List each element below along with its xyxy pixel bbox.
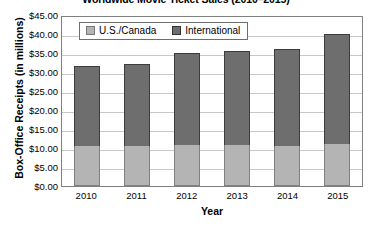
bar-segment-domestic[interactable] — [174, 145, 200, 186]
y-axis-tick-label: $30.00 — [18, 68, 58, 78]
bar-group — [262, 17, 312, 186]
legend-swatch-domestic — [86, 26, 95, 35]
y-axis-tick-label: $45.00 — [18, 11, 58, 21]
y-axis-tick-label: $20.00 — [18, 106, 58, 116]
bars-layer — [62, 17, 362, 186]
bar-stack[interactable] — [224, 51, 250, 186]
x-axis-tick-label: 2010 — [61, 190, 111, 201]
y-axis-tick-label: $5.00 — [18, 163, 58, 173]
bar-stack[interactable] — [124, 64, 150, 186]
bar-segment-international[interactable] — [224, 51, 250, 144]
x-axis-title: Year — [61, 205, 363, 217]
plot-area — [61, 16, 363, 187]
bar-segment-domestic[interactable] — [224, 145, 250, 186]
x-axis-tick-label: 2012 — [162, 190, 212, 201]
legend-item-international: International — [172, 25, 240, 36]
bar-segment-domestic[interactable] — [74, 146, 100, 186]
y-axis-tick-label: $35.00 — [18, 49, 58, 59]
y-axis-tick-label: $15.00 — [18, 125, 58, 135]
x-axis-tick-label: 2014 — [262, 190, 312, 201]
bar-group — [312, 17, 362, 186]
bar-segment-international[interactable] — [324, 34, 350, 144]
bar-group — [62, 17, 112, 186]
legend: U.S./Canada International — [79, 22, 248, 40]
bar-group — [162, 17, 212, 186]
bar-segment-domestic[interactable] — [124, 146, 150, 186]
bar-chart: Worldwide Movie Ticket Sales (2010–2015)… — [0, 0, 372, 226]
bar-group — [212, 17, 262, 186]
bar-stack[interactable] — [74, 66, 100, 186]
bar-segment-international[interactable] — [74, 66, 100, 145]
bar-stack[interactable] — [274, 49, 300, 186]
x-axis-tick-label: 2011 — [111, 190, 161, 201]
legend-swatch-international — [172, 26, 181, 35]
x-axis-tick-label: 2015 — [313, 190, 363, 201]
chart-title: Worldwide Movie Ticket Sales (2010–2015) — [0, 0, 372, 5]
y-axis-tick-label: $25.00 — [18, 87, 58, 97]
bar-segment-international[interactable] — [174, 53, 200, 145]
x-axis-tick-label: 2013 — [212, 190, 262, 201]
y-axis-tick-label: $10.00 — [18, 144, 58, 154]
legend-label-international: International — [185, 25, 240, 36]
bar-stack[interactable] — [324, 34, 350, 186]
x-axis-tick-labels: 201020112012201320142015 — [61, 190, 363, 201]
y-axis-tick-label: $0.00 — [18, 182, 58, 192]
bar-group — [112, 17, 162, 186]
bar-segment-international[interactable] — [274, 49, 300, 146]
y-axis-tick-label: $40.00 — [18, 30, 58, 40]
legend-label-domestic: U.S./Canada — [99, 25, 156, 36]
bar-segment-international[interactable] — [124, 64, 150, 146]
bar-segment-domestic[interactable] — [274, 146, 300, 186]
bar-stack[interactable] — [174, 53, 200, 186]
y-axis-tick-labels: $45.00$40.00$35.00$30.00$25.00$20.00$15.… — [18, 16, 58, 187]
legend-item-domestic: U.S./Canada — [86, 25, 156, 36]
bar-segment-domestic[interactable] — [324, 144, 350, 186]
